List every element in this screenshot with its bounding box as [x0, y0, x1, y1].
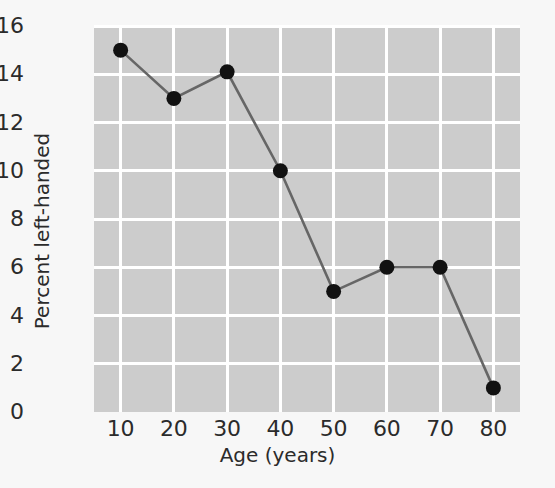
x-tick-label: 40: [266, 418, 294, 440]
line-series: [94, 26, 520, 412]
x-tick-label: 70: [426, 418, 454, 440]
x-tick-label: 80: [479, 418, 507, 440]
x-tick-label: 10: [107, 418, 135, 440]
y-tick-label: 12: [0, 112, 24, 134]
data-point-marker: [166, 91, 181, 106]
y-tick-label: 8: [10, 208, 24, 230]
x-axis-label: Age (years): [0, 443, 555, 467]
x-tick-label: 60: [373, 418, 401, 440]
y-tick-label: 16: [0, 15, 24, 37]
x-tick-label: 20: [160, 418, 188, 440]
y-tick-label: 14: [0, 63, 24, 85]
y-tick-label: 10: [0, 160, 24, 182]
data-point-marker: [326, 284, 341, 299]
data-point-marker: [220, 64, 235, 79]
y-tick-label: 0: [10, 401, 24, 423]
plot-area: [94, 26, 520, 412]
data-point-marker: [379, 260, 394, 275]
y-tick-label: 6: [10, 256, 24, 278]
data-point-marker: [113, 43, 128, 58]
x-tick-label: 50: [320, 418, 348, 440]
data-point-marker: [433, 260, 448, 275]
data-point-marker: [273, 163, 288, 178]
y-axis-label: Percent left-handed: [30, 81, 54, 381]
data-point-marker: [486, 380, 501, 395]
y-tick-label: 4: [10, 305, 24, 327]
y-tick-label: 2: [10, 353, 24, 375]
x-tick-label: 30: [213, 418, 241, 440]
chart-figure: 0246810121416 1020304050607080 Age (year…: [0, 0, 555, 488]
